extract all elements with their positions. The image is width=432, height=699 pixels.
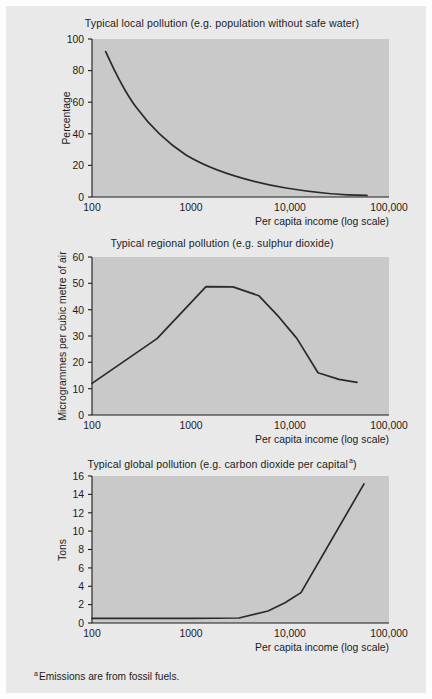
ytick-label: 12	[72, 508, 84, 519]
plot-background	[92, 257, 389, 415]
ytick-label: 10	[72, 526, 84, 537]
xtick-label: 100	[83, 202, 101, 213]
ytick-label: 20	[72, 160, 84, 171]
xtick-label: 10,000	[274, 628, 306, 639]
ytick-label: 8	[78, 544, 84, 555]
y-tick-marks	[88, 39, 92, 197]
xaxis-title: Per capita income (log scale)	[255, 216, 389, 227]
footnote-text: Emissions are from fossil fuels.	[39, 671, 179, 682]
y-tick-marks	[88, 257, 92, 415]
xtick-label: 100	[83, 628, 101, 639]
yaxis-title: Microgrammes per cubic metre of air	[57, 251, 68, 421]
xtick-label: 100,000	[370, 628, 408, 639]
y-tick-marks	[88, 476, 92, 623]
xtick-label: 10,000	[274, 202, 306, 213]
xtick-label: 1000	[179, 420, 202, 431]
xtick-label: 1000	[179, 202, 202, 213]
ytick-label: 6	[78, 563, 84, 574]
plot-background	[92, 476, 389, 623]
plot-background	[92, 39, 389, 197]
chart-regional-pollution: Typical regional pollution (e.g. sulphur…	[6, 232, 432, 454]
ytick-label: 20	[72, 357, 84, 368]
plot-local-pollution: 0 20 40 60 80 100 100 1000 10,000 100,00…	[6, 12, 432, 234]
pollution-figure: Typical local pollution (e.g. population…	[6, 6, 432, 699]
ytick-label: 2	[78, 599, 84, 610]
xtick-label: 100	[83, 420, 101, 431]
ytick-label: 10	[72, 384, 84, 395]
xtick-label: 1000	[179, 628, 202, 639]
ytick-label: 60	[72, 252, 84, 263]
xtick-label: 10,000	[274, 420, 306, 431]
ytick-label: 4	[78, 581, 84, 592]
ytick-label: 60	[72, 97, 84, 108]
ytick-label: 40	[72, 129, 84, 140]
ytick-label: 16	[72, 471, 84, 482]
plot-global-pollution: 0 2 4 6 8 10 12 14 16 100 1000 10,000 10…	[6, 452, 432, 687]
xtick-label: 100,000	[370, 420, 408, 431]
yaxis-title: Percentage	[61, 91, 72, 144]
figure-page: Typical local pollution (e.g. population…	[0, 0, 432, 699]
ytick-label: 30	[72, 331, 84, 342]
xaxis-title: Per capita income (log scale)	[255, 642, 389, 653]
chart-global-pollution: Typical global pollution (e.g. carbon di…	[6, 452, 432, 687]
ytick-label: 50	[72, 278, 84, 289]
ytick-label: 14	[72, 489, 84, 500]
ytick-label: 40	[72, 305, 84, 316]
yaxis-title: Tons	[57, 539, 68, 561]
ytick-label: 80	[72, 65, 84, 76]
footnote: aEmissions are from fossil fuels.	[34, 670, 179, 682]
plot-regional-pollution: 0 10 20 30 40 50 60 100 1000 10,000 100,…	[6, 232, 432, 454]
xtick-label: 100,000	[370, 202, 408, 213]
xaxis-title: Per capita income (log scale)	[255, 434, 389, 445]
chart-local-pollution: Typical local pollution (e.g. population…	[6, 12, 432, 234]
ytick-label: 100	[67, 34, 85, 45]
